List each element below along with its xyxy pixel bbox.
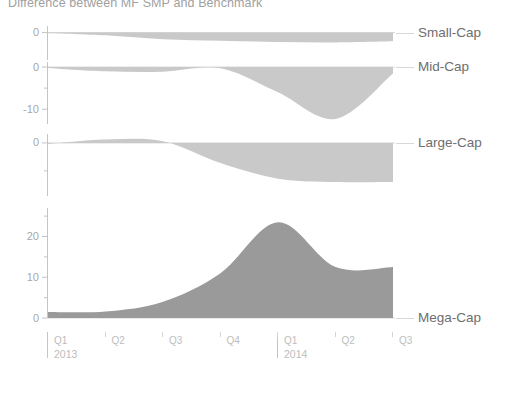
x-axis-quarter-label: Q1: [54, 335, 67, 346]
series-leader-line: [396, 318, 414, 319]
x-axis-quarter-label: Q4: [227, 335, 240, 346]
x-axis-tick: [277, 332, 278, 337]
x-axis-year-label: 2014: [284, 348, 307, 360]
series-label-large-cap: Large-Cap: [418, 136, 482, 150]
x-axis-quarter-label: Q1: [284, 335, 297, 346]
y-tick-label: -10: [23, 104, 39, 115]
y-tick-label: 0: [33, 62, 39, 73]
year-separator: [47, 332, 48, 358]
panel-mega-cap: 01020: [0, 208, 522, 318]
x-axis-quarter-label: Q3: [169, 335, 182, 346]
area-series: [48, 222, 393, 318]
area-series: [48, 139, 393, 183]
series-leader-line: [396, 67, 414, 68]
panel-plot: [0, 208, 522, 318]
x-axis-year-label: 2013: [54, 348, 77, 360]
series-label-small-cap: Small-Cap: [418, 26, 481, 40]
y-tick-label: 0: [33, 313, 39, 324]
chart-root: Difference between MF SMP and Benchmark …: [0, 0, 522, 395]
series-label-mid-cap: Mid-Cap: [418, 60, 469, 74]
x-axis-tick: [105, 332, 106, 337]
series-leader-line: [396, 33, 414, 34]
x-axis-quarter-label: Q2: [342, 335, 355, 346]
area-series: [48, 33, 393, 43]
y-tick-label: 20: [27, 231, 39, 242]
y-tick-label: 10: [27, 272, 39, 283]
series-leader-line: [396, 143, 414, 144]
x-axis-tick: [220, 332, 221, 337]
area-series: [48, 67, 393, 119]
x-axis-quarter-label: Q3: [399, 335, 412, 346]
chart-title: Difference between MF SMP and Benchmark: [8, 0, 262, 10]
y-tick-label: 0: [33, 137, 39, 148]
x-axis-tick: [335, 332, 336, 337]
x-axis-tick: [392, 332, 393, 337]
x-axis-tick: [162, 332, 163, 337]
x-axis-quarter-label: Q2: [112, 335, 125, 346]
y-tick-label: 0: [33, 27, 39, 38]
series-label-mega-cap: Mega-Cap: [418, 311, 481, 325]
